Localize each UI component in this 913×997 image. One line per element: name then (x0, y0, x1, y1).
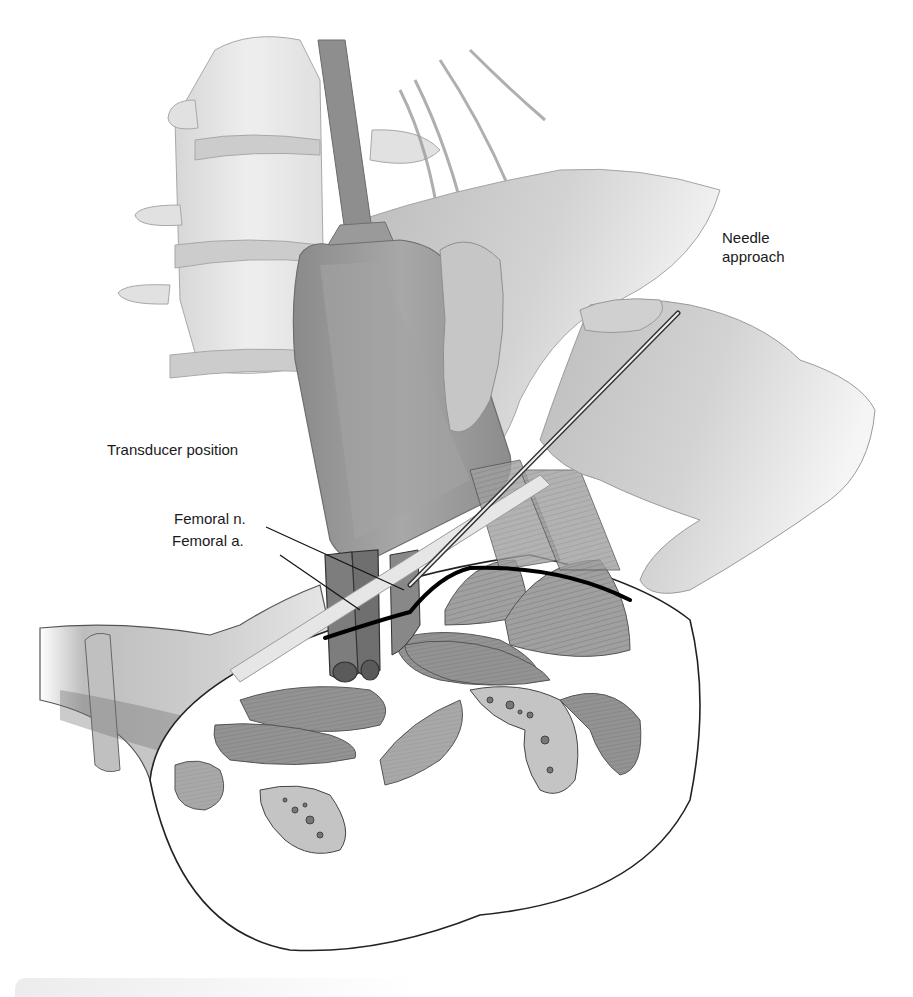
needle-approach-label: Needle approach (722, 228, 785, 266)
femoral-nerve-label: Femoral n. (174, 509, 246, 528)
transducer-position-label: Transducer position (107, 440, 238, 459)
needle-approach-label-line1: Needle (722, 228, 785, 247)
anatomy-drawing (0, 0, 913, 997)
transducer-cable (318, 40, 372, 232)
femoral-artery-label: Femoral a. (172, 531, 244, 550)
needle-approach-label-line2: approach (722, 247, 785, 266)
caption-bar (15, 978, 913, 997)
femoral-block-illustration: Needle approach Transducer position Femo… (0, 0, 913, 997)
